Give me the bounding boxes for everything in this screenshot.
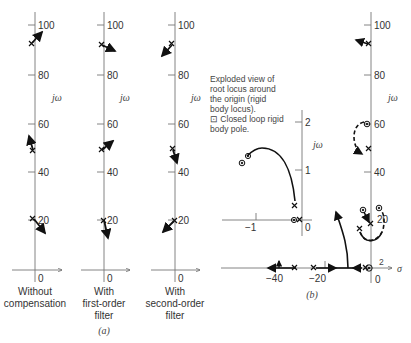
rigid-body-locus <box>247 148 295 201</box>
caption-line: filter <box>166 310 186 321</box>
locus-branches <box>268 40 384 268</box>
panel-second-order-filter: 100 80 60 40 20 0 jω With second-order f… <box>146 12 206 321</box>
tick-marks <box>97 25 104 220</box>
origin-label: 0 <box>38 273 44 284</box>
locus-arrows <box>29 32 45 233</box>
inset-closed-loop-poles <box>239 153 296 222</box>
pole-markers <box>99 42 106 223</box>
tick-label-100: 100 <box>107 20 124 31</box>
tick-label-60: 60 <box>38 119 50 130</box>
caption-line: Without <box>18 286 52 297</box>
origin-label: 0 <box>178 273 184 284</box>
caption-line: second-order <box>146 298 206 309</box>
tick-label-80: 80 <box>107 70 119 81</box>
tick-label-40: 40 <box>38 167 50 178</box>
inset-note-line: body pole. <box>210 124 249 134</box>
pole-markers <box>292 41 373 270</box>
origin-label: 0 <box>107 273 113 284</box>
tick-label-100: 100 <box>38 20 55 31</box>
multiplicity-label: 2 <box>379 257 384 267</box>
tick-label-neg40: −40 <box>266 273 283 284</box>
tick-label-80: 80 <box>178 70 190 81</box>
caption-line: compensation <box>4 298 66 309</box>
pole-markers <box>29 41 35 221</box>
tick-label-80: 80 <box>38 70 50 81</box>
inset-note-line: the origin (rigid <box>210 94 266 104</box>
axis-label-jw: jω <box>118 92 130 103</box>
caption-line: With <box>94 286 114 297</box>
tick-label-60: 60 <box>178 119 190 130</box>
sigma-label: σ <box>397 263 403 274</box>
panel-without-compensation: 100 80 60 40 20 0 jω Without compensatio… <box>4 12 66 309</box>
inset-note-line: body locus). <box>210 104 256 114</box>
tick-label-40: 40 <box>374 167 386 178</box>
tick-label-20: 20 <box>107 215 119 226</box>
axis-label-jw: jω <box>189 92 201 103</box>
tick-label-20: 20 <box>38 215 50 226</box>
inset-origin-label: 0 <box>305 222 311 233</box>
caption-line: first-order <box>83 298 126 309</box>
inset-tick-label-1: 1 <box>305 165 311 176</box>
tick-marks <box>28 25 35 220</box>
pole-markers <box>169 41 177 223</box>
tick-label-60: 60 <box>374 119 386 130</box>
panel-first-order-filter: 100 80 60 40 20 0 jω With first-order fi… <box>81 12 130 321</box>
tick-label-20: 20 <box>178 215 190 226</box>
inset-note-line: root locus around <box>210 84 276 94</box>
caption-line: filter <box>95 310 115 321</box>
inset-tick-label-2: 2 <box>305 117 311 128</box>
caption-b: (b) <box>306 289 318 301</box>
tick-label-60: 60 <box>107 119 119 130</box>
tick-marks <box>168 25 175 220</box>
inset-exploded-view: Exploded view of root locus around the o… <box>210 74 323 236</box>
tick-marks <box>279 25 371 268</box>
origin-label: 0 <box>375 274 381 285</box>
inset-note-line: ⊡ Closed loop rigid <box>210 114 284 124</box>
inset-note-line: Exploded view of <box>210 74 275 84</box>
inset-tick-label-neg1: −1 <box>245 222 257 233</box>
tick-label-neg20: −20 <box>309 273 326 284</box>
root-locus-figure: 100 80 60 40 20 0 jω Without compensatio… <box>0 0 411 343</box>
axis-label-jw: jω <box>50 92 62 103</box>
caption-line: With <box>165 286 185 297</box>
caption-a: (a) <box>98 325 110 337</box>
tick-label-40: 40 <box>178 167 190 178</box>
axis-label-jw: jω <box>386 92 398 103</box>
tick-label-100: 100 <box>374 20 391 31</box>
inset-axis-label-jw: jω <box>311 139 323 150</box>
tick-label-40: 40 <box>107 167 119 178</box>
tick-label-80: 80 <box>374 70 386 81</box>
tick-label-100: 100 <box>178 20 195 31</box>
panel-b-main: 100 80 60 40 20 0 2 σ jω −40 −20 <box>221 12 403 285</box>
